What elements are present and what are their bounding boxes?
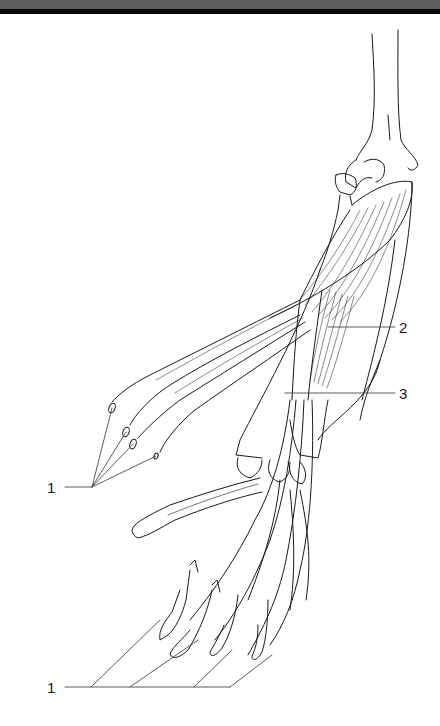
thumb-bones bbox=[132, 478, 262, 538]
label-1-top: 1 bbox=[47, 480, 55, 495]
wrist-carpals bbox=[237, 458, 305, 484]
radius-ulna-bones bbox=[236, 270, 380, 458]
forearm-muscles bbox=[270, 181, 412, 420]
extended-flexor-tendons bbox=[107, 300, 310, 460]
finger-bones bbox=[160, 560, 268, 659]
anatomy-illustration bbox=[0, 0, 440, 726]
humerus-bone bbox=[356, 30, 418, 170]
label-3: 3 bbox=[399, 386, 407, 401]
finger-tendons bbox=[190, 400, 313, 655]
label-2: 2 bbox=[399, 320, 407, 335]
label-1-bottom: 1 bbox=[47, 680, 55, 695]
leader-lines bbox=[65, 327, 395, 687]
